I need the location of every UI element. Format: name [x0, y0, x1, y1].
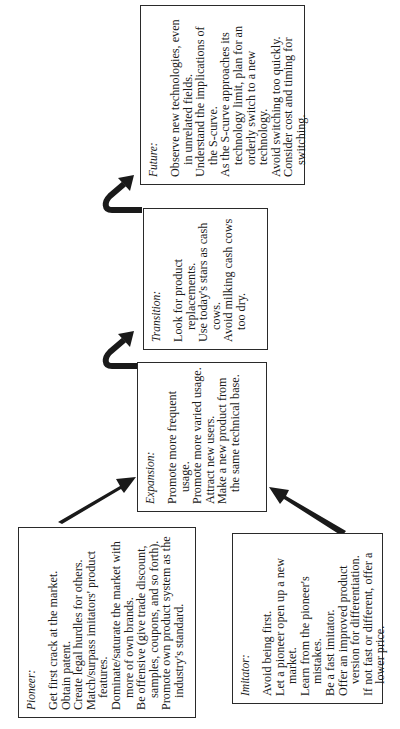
arrow-imitator-to-expansion — [269, 487, 346, 536]
list-item: Avoid milking cash cows too dry. — [222, 213, 247, 342]
list-item: Promote more frequent usage. — [166, 367, 191, 504]
transition-box: Transition: Look for product replacement… — [143, 208, 268, 350]
imitator-box: Imitator: Avoid being first. Let a pione… — [232, 533, 383, 704]
list-item: Create legal hurdles for others. — [72, 532, 85, 710]
list-item: Promote more varied usage. — [191, 367, 204, 504]
list-item: Observe new technologies, even in unrela… — [169, 10, 194, 177]
future-box: Future: Observe new technologies, even i… — [140, 5, 305, 185]
imitator-title: Imitator: — [239, 538, 252, 696]
arrow-pioneer-to-expansion — [58, 477, 136, 524]
future-title: Future: — [147, 10, 160, 177]
list-item: Let a pioneer open up a new market. — [274, 538, 299, 696]
list-item: Promote own product system as the indust… — [160, 532, 185, 710]
expansion-box: Expansion: Promote more frequent usage. … — [137, 362, 267, 512]
list-item: Offer an improved product version for di… — [337, 538, 362, 696]
list-item: Avoid being first. — [261, 538, 274, 696]
list-item: Match/surpass imitators' product feature… — [85, 532, 110, 710]
list-item: Be a fast imitator. — [324, 538, 337, 696]
list-item: Learn from the pioneer's mistakes. — [299, 538, 324, 696]
pioneer-title: Pioneer: — [25, 532, 38, 710]
list-item: As the S-curve approaches its technology… — [219, 10, 269, 177]
transition-title: Transition: — [150, 213, 163, 342]
pioneer-box: Pioneer: Get first crack at the market. … — [18, 527, 196, 718]
list-item: Make a new product from the same technic… — [216, 367, 241, 504]
arrow-expansion-to-transition — [106, 331, 138, 366]
list-item: Dominate/saturate the market with more o… — [110, 532, 135, 710]
list-item: Use today's stars as cash cows. — [197, 213, 222, 342]
expansion-title: Expansion: — [144, 367, 157, 504]
list-item: Get first crack at the market. — [47, 532, 60, 710]
list-item: Consider cost and timing for switching. — [282, 10, 307, 177]
list-item: Look for product replacements. — [172, 213, 197, 342]
list-item: Be offensive (give trade discount, sampl… — [135, 532, 160, 710]
list-item: If not fast or different, offer a lower … — [362, 538, 387, 696]
list-item: Understand the implications of the S-cur… — [194, 10, 219, 177]
arrow-transition-to-future — [106, 175, 142, 210]
